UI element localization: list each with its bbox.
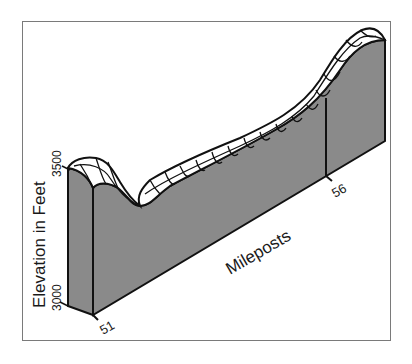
elevation-chart: Elevation in Feet 3500 3000 51 56 Milepo… — [0, 0, 412, 364]
y-tick-label-3500: 3500 — [50, 150, 64, 177]
x-axis-title: Mileposts — [223, 226, 295, 278]
y-axis-title: Elevation in Feet — [30, 181, 49, 308]
x-tick-51 — [93, 315, 98, 320]
x-tick-label-51: 51 — [97, 317, 117, 337]
y-tick-label-3000: 3000 — [50, 284, 64, 311]
x-tick-label-56: 56 — [329, 180, 349, 200]
milepost-56-tick — [326, 176, 332, 181]
left-end-face — [68, 168, 93, 315]
